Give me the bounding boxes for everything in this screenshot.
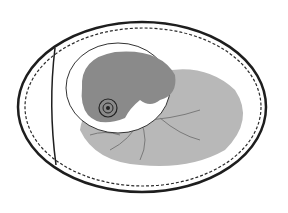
egg-drawing bbox=[0, 0, 288, 213]
egg-illustration bbox=[0, 0, 288, 213]
